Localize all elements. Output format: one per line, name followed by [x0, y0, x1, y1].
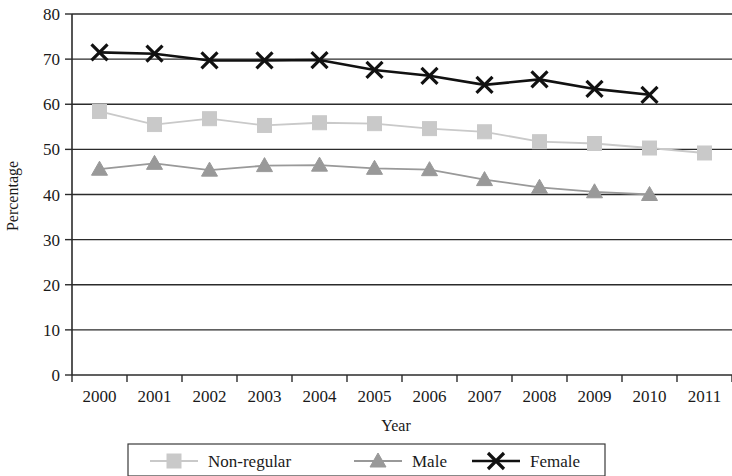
x-tick-label: 2000 [83, 387, 117, 406]
x-tick-label: 2009 [578, 387, 612, 406]
line-chart: 01020304050607080 2000200120022003200420… [0, 0, 732, 476]
data-point-square-marker [93, 104, 107, 118]
x-tick-label: 2004 [303, 387, 338, 406]
data-point-square-marker [148, 118, 162, 132]
y-tick-label: 30 [43, 231, 60, 250]
y-tick-label: 10 [43, 321, 60, 340]
data-point-square-marker [368, 117, 382, 131]
data-point-square-marker [203, 112, 217, 126]
chart-canvas: 01020304050607080 2000200120022003200420… [0, 0, 732, 476]
y-tick-label: 50 [43, 140, 60, 159]
x-tick-label: 2002 [193, 387, 227, 406]
legend-label: Female [530, 452, 580, 471]
data-point-square-marker [698, 146, 712, 160]
x-tick-label: 2006 [413, 387, 447, 406]
data-point-triangle-marker [257, 158, 273, 172]
x-tick-label: 2007 [468, 387, 503, 406]
x-tick-label: 2011 [688, 387, 721, 406]
x-tick-label: 2005 [358, 387, 392, 406]
x-tick-label: 2003 [248, 387, 282, 406]
x-tick-label: 2010 [633, 387, 667, 406]
legend-item-non-regular[interactable]: Non-regular [150, 452, 291, 471]
chart-legend: Non-regularMaleFemale [128, 444, 605, 476]
data-point-square-marker [423, 122, 437, 136]
legend-triangle-marker [370, 453, 386, 467]
axis-tickmarks [65, 14, 732, 382]
legend-item-female[interactable]: Female [472, 452, 580, 471]
x-axis-title: Year [381, 417, 411, 434]
x-tick-label: 2008 [523, 387, 557, 406]
data-series-layer [92, 44, 712, 200]
y-tick-labels: 01020304050607080 [43, 5, 60, 385]
y-axis-title: Percentage [4, 161, 22, 231]
y-tick-label: 80 [43, 5, 60, 24]
y-tick-label: 0 [52, 366, 61, 385]
data-point-square-marker [478, 125, 492, 139]
series-female [92, 44, 658, 102]
legend-label: Male [412, 452, 447, 471]
legend-square-marker [167, 454, 181, 468]
y-tick-label: 60 [43, 95, 60, 114]
data-point-triangle-marker [312, 157, 328, 171]
data-point-triangle-marker [147, 155, 163, 169]
y-tick-label: 40 [43, 186, 60, 205]
data-point-square-marker [313, 116, 327, 130]
data-point-square-marker [533, 135, 547, 149]
legend-label: Non-regular [208, 452, 291, 471]
x-tick-labels: 2000200120022003200420052006200720082009… [83, 387, 722, 406]
y-tick-label: 70 [43, 50, 60, 69]
data-point-square-marker [588, 137, 602, 151]
series-non-regular [93, 104, 712, 160]
x-tick-label: 2001 [138, 387, 172, 406]
legend-item-male[interactable]: Male [354, 452, 447, 471]
y-tick-label: 20 [43, 276, 60, 295]
data-point-square-marker [258, 118, 272, 132]
data-point-square-marker [643, 141, 657, 155]
series-line [100, 111, 705, 153]
series-male [92, 155, 658, 200]
